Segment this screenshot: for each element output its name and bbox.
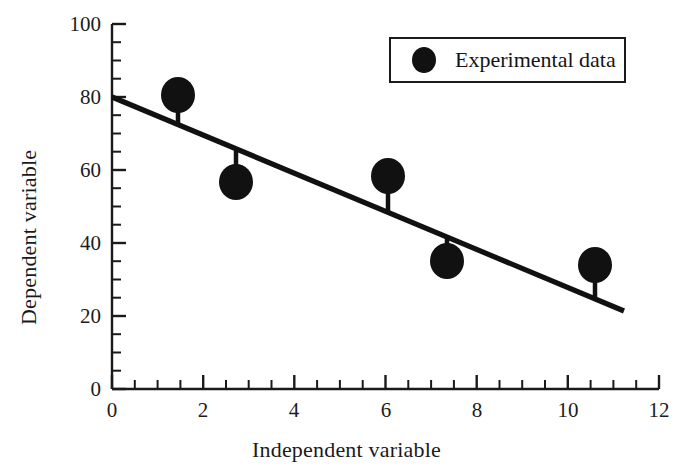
legend-marker-icon xyxy=(412,47,436,73)
data-point xyxy=(219,164,253,200)
data-point xyxy=(430,243,464,279)
y-axis-title: Dependent variable xyxy=(16,0,50,325)
x-tick-label-0: 0 xyxy=(107,400,118,421)
x-axis-title: Independent variable xyxy=(0,437,693,463)
y-tick-label-100: 100 xyxy=(46,14,101,35)
y-tick-label-20: 20 xyxy=(46,306,101,327)
fitted-trend-line xyxy=(112,97,624,311)
x-tick-label-12: 12 xyxy=(649,400,670,421)
data-point-markers xyxy=(161,77,612,283)
y-tick-label-0: 0 xyxy=(46,379,101,400)
legend-entry-label: Experimental data xyxy=(455,47,616,73)
data-point xyxy=(161,77,195,113)
x-tick-label-8: 8 xyxy=(472,400,483,421)
data-point xyxy=(578,247,612,283)
data-point xyxy=(371,158,405,194)
x-tick-label-2: 2 xyxy=(198,400,209,421)
y-tick-label-40: 40 xyxy=(46,233,101,254)
y-tick-label-60: 60 xyxy=(46,160,101,181)
x-tick-label-4: 4 xyxy=(289,400,300,421)
y-tick-label-80: 80 xyxy=(46,87,101,108)
chart-figure: 100 80 60 40 20 0 0 2 4 6 8 10 12 Indepe… xyxy=(0,0,693,474)
x-axis-major-ticks xyxy=(112,375,659,389)
x-tick-label-10: 10 xyxy=(558,400,579,421)
y-axis-minor-ticks xyxy=(112,42,121,371)
x-tick-label-6: 6 xyxy=(381,400,392,421)
legend: Experimental data xyxy=(389,37,626,83)
